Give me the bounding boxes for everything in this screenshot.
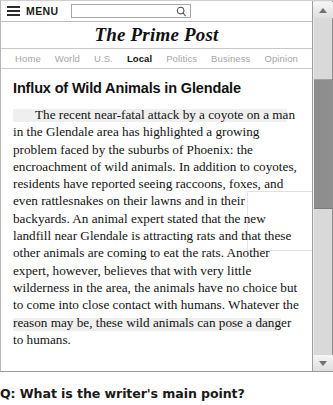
nav-item-home[interactable]: Home xyxy=(8,53,48,64)
menu-button-label[interactable]: MENU xyxy=(26,5,59,17)
menu-bar: MENU xyxy=(1,1,312,22)
article-content: Influx of Wild Animals in Glendale The r… xyxy=(1,69,312,371)
nav-item-politics[interactable]: Politics xyxy=(159,53,204,64)
hamburger-menu-icon[interactable] xyxy=(7,6,20,16)
browser-frame: MENU The Prime Post Home World U.S. Loca… xyxy=(0,0,333,372)
navigation-bar: Home World U.S. Local Politics Business … xyxy=(1,48,312,69)
vertical-scrollbar[interactable] xyxy=(312,1,333,372)
article-body: The recent near-fatal attack by a coyote… xyxy=(13,106,299,348)
scroll-up-arrow-icon xyxy=(319,8,327,13)
nav-item-local[interactable]: Local xyxy=(120,53,159,64)
masthead: The Prime Post xyxy=(1,22,312,48)
search-input[interactable] xyxy=(72,5,176,17)
nav-item-world[interactable]: World xyxy=(48,53,87,64)
site-title: The Prime Post xyxy=(94,24,218,46)
scroll-down-arrow-icon xyxy=(319,361,327,366)
scroll-up-button[interactable] xyxy=(313,2,333,18)
question-text: Q: What is the writer's main point? xyxy=(0,386,333,401)
article-headline: Influx of Wild Animals in Glendale xyxy=(13,81,299,97)
nav-item-business[interactable]: Business xyxy=(204,53,257,64)
nav-item-us[interactable]: U.S. xyxy=(87,53,120,64)
search-icon[interactable] xyxy=(176,6,187,17)
nav-item-opinion[interactable]: Opinion xyxy=(257,53,304,64)
search-field[interactable] xyxy=(71,4,191,18)
scroll-down-button[interactable] xyxy=(313,355,333,371)
scrollbar-thumb[interactable] xyxy=(314,79,332,209)
